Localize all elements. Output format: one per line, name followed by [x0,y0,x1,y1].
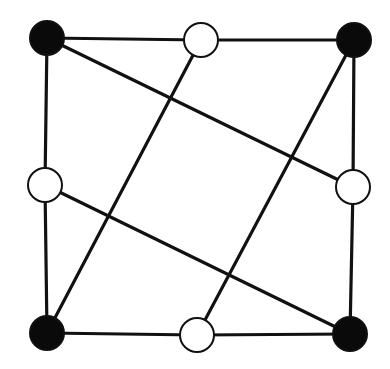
edge-tl-tm [47,38,201,40]
edge-bl-bm [47,333,197,335]
graph-diagram [0,0,390,369]
node-bm-white [180,318,214,352]
edge-bm-br [197,334,350,335]
edge-tl-lm [45,38,47,185]
node-bl-black [30,316,64,350]
edge-tm-bl [47,40,201,333]
node-tr-black [337,23,371,57]
node-lm-white [28,168,62,202]
node-tl-black [30,21,64,55]
node-tm-white [184,23,218,57]
edge-tr-rm [353,40,354,187]
edge-rm-br [350,187,353,334]
edges-group [45,38,354,335]
edge-lm-bl [45,185,47,333]
nodes-group [28,21,371,352]
edge-lm-br [45,185,350,334]
edge-tl-rm [47,38,353,187]
node-br-black [333,317,367,351]
edge-tr-bm [197,40,354,335]
node-rm-white [336,170,370,204]
